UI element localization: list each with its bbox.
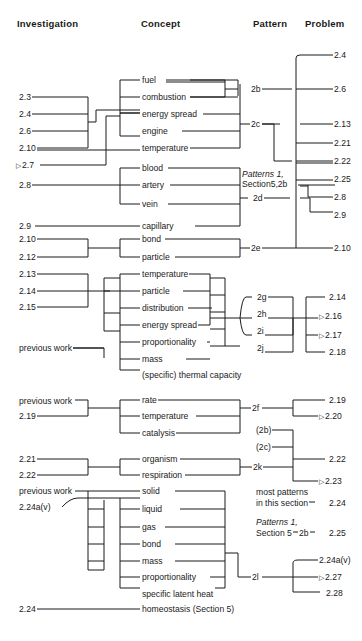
- concept-label: solid: [141, 486, 161, 496]
- pattern-label: 2k: [252, 462, 263, 472]
- problem-label: 2.14: [328, 292, 347, 302]
- concept-label: capillary: [141, 221, 175, 231]
- concept-label: temperature: [141, 143, 189, 153]
- investigation-label-marked: ▷2.7: [15, 160, 35, 171]
- pattern-label: 2b: [250, 84, 262, 94]
- problem-label: 2.10: [333, 243, 352, 253]
- pattern-note: most patterns: [255, 487, 309, 497]
- pattern-label: 2l: [251, 572, 260, 582]
- investigation-label: 2.15: [18, 302, 37, 312]
- concept-label: liquid: [141, 504, 163, 514]
- pattern-label: 2g: [256, 292, 268, 302]
- concept-label: combustion: [141, 92, 187, 102]
- concept-label: proportionality: [141, 337, 197, 347]
- concept-label: mass: [141, 556, 164, 566]
- concept-label: respiration: [141, 470, 183, 480]
- investigation-label: 2.22: [18, 470, 37, 480]
- concept-label: proportionality: [141, 572, 197, 582]
- concept-label: energy spread: [141, 109, 198, 119]
- investigation-label: 2.12: [18, 252, 37, 262]
- problem-label: 2.21: [333, 138, 352, 148]
- pattern-label: (2c): [255, 442, 272, 452]
- problem-label: 2.19: [328, 395, 347, 405]
- pattern-note: Patterns 1,: [241, 169, 285, 179]
- problem-label-marked: ▷2.16: [318, 311, 343, 322]
- pattern-label: (2b): [255, 425, 272, 435]
- investigation-label: 2.19: [18, 411, 37, 421]
- investigation-label: 2.6: [18, 126, 32, 136]
- investigation-label: 2.10: [18, 234, 37, 244]
- concept-label: homeostasis (Section 5): [141, 604, 235, 614]
- concept-label: bond: [141, 234, 162, 244]
- concept-label: specific latent heat: [141, 589, 214, 599]
- problem-label-marked: ▷2.23: [318, 476, 343, 487]
- problem-label: 2.9: [333, 210, 347, 220]
- problem-label: 2.25: [333, 174, 352, 184]
- triangle-marker-icon: ▷: [16, 162, 21, 169]
- problem-label: 2.24: [328, 498, 347, 508]
- investigation-label: 2.24a(v): [18, 502, 52, 512]
- concept-label: rate: [141, 395, 158, 405]
- header-concept: Concept: [141, 18, 180, 29]
- concept-label: organism: [141, 454, 178, 464]
- pattern-note: Section5,2b: [241, 179, 288, 189]
- concept-label: fuel: [141, 75, 157, 85]
- pattern-label: 2c: [250, 119, 261, 129]
- pattern-label: 2e: [250, 243, 262, 253]
- investigation-label: previous work: [18, 343, 73, 353]
- triangle-marker-icon: ▷: [319, 574, 324, 581]
- pattern-label: 2f: [251, 403, 260, 413]
- problem-label: 2.4: [333, 50, 347, 60]
- concept-label: artery: [141, 180, 165, 190]
- header-investigation: Investigation: [17, 18, 78, 29]
- problem-label: 2.25: [328, 528, 347, 538]
- header-problem: Problem: [305, 18, 344, 29]
- problem-label: 2.6: [333, 84, 347, 94]
- problem-label: 2.22: [328, 454, 347, 464]
- triangle-marker-icon: ▷: [319, 413, 324, 420]
- concept-label: distribution: [141, 303, 185, 313]
- pattern-note: Section 5: [255, 528, 293, 538]
- triangle-marker-icon: ▷: [319, 332, 324, 339]
- problem-label: 2.13: [333, 119, 352, 129]
- concept-label: blood: [141, 163, 164, 173]
- investigation-label: 2.24: [18, 604, 37, 614]
- concept-label: engine: [141, 126, 169, 136]
- pattern-label: 2h: [256, 309, 268, 319]
- investigation-label: 2.4: [18, 109, 32, 119]
- pattern-label: 2j: [256, 343, 265, 353]
- investigation-label: previous work: [18, 396, 73, 406]
- problem-label-marked: ▷2.17: [318, 330, 343, 341]
- investigation-label: previous work: [18, 486, 73, 496]
- concept-label: vein: [141, 199, 159, 209]
- header-pattern: Pattern: [253, 18, 287, 29]
- triangle-marker-icon: ▷: [319, 313, 324, 320]
- problem-label-marked: ▷2.20: [318, 411, 343, 422]
- problem-label-marked: ▷2.27: [318, 572, 343, 583]
- concept-label: energy spread: [141, 320, 198, 330]
- concept-label: particle: [141, 286, 171, 296]
- pattern-label: 2b: [298, 528, 310, 538]
- problem-label: 2.24a(v): [318, 555, 352, 565]
- investigation-label: 2.10: [18, 143, 37, 153]
- pattern-note: Patterns 1,: [255, 517, 299, 527]
- pattern-note: in this section: [255, 498, 309, 508]
- pattern-label: 2d: [252, 193, 264, 203]
- investigation-label: 2.13: [18, 269, 37, 279]
- concept-label: temperature: [141, 269, 189, 279]
- problem-label: 2.8: [333, 192, 347, 202]
- investigation-label: 2.9: [18, 221, 32, 231]
- investigation-label: 2.8: [18, 180, 32, 190]
- concept-label: mass: [141, 354, 164, 364]
- concept-label: bond: [141, 539, 162, 549]
- problem-label: 2.28: [325, 588, 344, 598]
- concept-label: (specific) thermal capacity: [141, 370, 242, 380]
- problem-label: 2.18: [328, 347, 347, 357]
- triangle-marker-icon: ▷: [319, 478, 324, 485]
- investigation-label: 2.14: [18, 286, 37, 296]
- concept-label: gas: [141, 522, 157, 532]
- concept-label: temperature: [141, 411, 189, 421]
- investigation-label: 2.21: [18, 454, 37, 464]
- pattern-label: 2i: [256, 326, 265, 336]
- problem-label: 2.22: [333, 156, 352, 166]
